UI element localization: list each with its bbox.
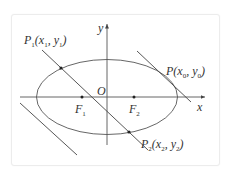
focus-f2-label: F2 xyxy=(128,102,140,118)
point-p1-label: P1(x1, y1) xyxy=(23,33,67,49)
origin-label: O xyxy=(97,84,106,98)
y-axis-label: y xyxy=(97,21,104,35)
ellipse-diagram: y x O F1 F2 P1(x1, y1) P(x0, y0) P2(x2, … xyxy=(0,0,231,169)
focus-f1 xyxy=(81,96,84,99)
point-p-label: P(x0, y0) xyxy=(165,64,205,80)
point-p2-label: P2(x2, y2) xyxy=(140,137,184,153)
point-p1 xyxy=(59,66,62,69)
x-axis-label: x xyxy=(196,100,203,114)
parallel-line xyxy=(20,103,77,155)
point-p2 xyxy=(127,130,130,133)
focus-f2 xyxy=(133,96,136,99)
focus-f1-label: F1 xyxy=(74,102,86,118)
chord-line-p1-p2 xyxy=(42,50,148,150)
